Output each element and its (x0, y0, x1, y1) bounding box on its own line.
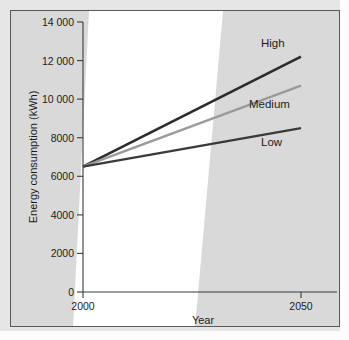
line-chart: 14 000 12 000 10 000 8000 6000 4000 2000… (11, 11, 340, 327)
y-tick-label-2000: 2000 (51, 247, 75, 259)
y-tick-label-12000: 12 000 (42, 55, 74, 67)
x-tick-label-2050: 2050 (289, 300, 313, 312)
figure-page: 14 000 12 000 10 000 8000 6000 4000 2000… (0, 0, 349, 340)
x-tick-marks (83, 292, 301, 298)
x-tick-label-2000: 2000 (71, 300, 95, 312)
y-tick-label-14000: 14 000 (42, 16, 74, 28)
scan-margin-right (340, 0, 349, 340)
y-tick-label-10000: 10 000 (42, 93, 74, 105)
y-tick-labels: 14 000 12 000 10 000 8000 6000 4000 2000… (42, 16, 74, 298)
series-label-medium: Medium (249, 98, 290, 110)
series-label-low: Low (261, 136, 283, 148)
y-tick-label-8000: 8000 (51, 132, 75, 144)
x-axis-title: Year (192, 314, 215, 326)
y-tick-label-4000: 4000 (51, 209, 75, 221)
y-tick-label-0: 0 (68, 286, 74, 298)
series-label-high: High (261, 37, 285, 49)
x-tick-labels: 2000 2050 (71, 300, 313, 312)
y-axis-title: Energy consumption (kWh) (27, 91, 39, 224)
chart-frame: 14 000 12 000 10 000 8000 6000 4000 2000… (10, 10, 340, 327)
scan-margin-bottom (0, 331, 349, 340)
series-line-high (83, 57, 301, 167)
y-tick-label-6000: 6000 (51, 170, 75, 182)
y-tick-marks (77, 22, 83, 292)
